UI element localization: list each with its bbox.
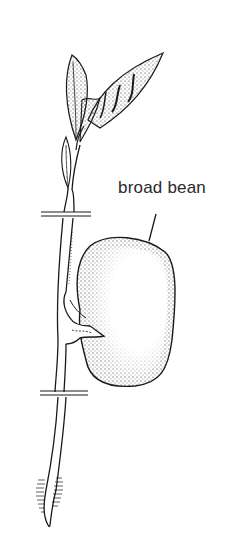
root [44,397,66,527]
seedling-diagram: broad bean [0,0,246,557]
root-hairs [36,478,63,512]
large-leaf [88,53,163,128]
broad-bean-label: broad bean [118,178,206,198]
seedling-illustration [0,0,246,557]
break-mark-upper [41,212,91,216]
break-mark-lower [40,391,88,395]
bean-seed [77,237,175,386]
small-leaf [62,137,71,188]
label-leader-line [149,214,156,241]
folded-leaf [66,55,100,142]
